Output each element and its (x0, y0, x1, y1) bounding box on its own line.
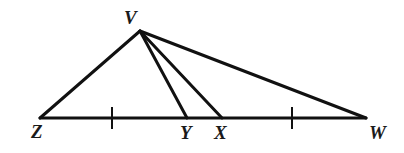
geometry-figure: V Z Y X W (0, 0, 404, 153)
vertex-label-Z: Z (31, 122, 43, 141)
side-ZV (40, 31, 140, 118)
geometry-canvas (0, 0, 404, 153)
vertex-label-V: V (124, 8, 137, 27)
vertex-label-X: X (214, 123, 227, 142)
side-VW (140, 31, 366, 118)
vertex-label-Y: Y (180, 123, 192, 142)
vertex-label-W: W (369, 123, 386, 142)
